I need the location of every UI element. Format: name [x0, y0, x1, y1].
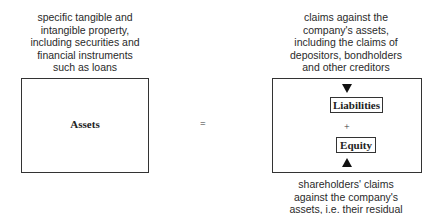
assets-description: specific tangible and intangible propert…	[20, 11, 150, 74]
equals-sign: =	[200, 118, 206, 129]
assets-box: Assets	[21, 78, 149, 173]
liabilities-description: claims against the company's assets, inc…	[271, 11, 421, 74]
liabilities-equity-box: Liabilities + Equity	[272, 78, 422, 173]
down-arrow-icon	[342, 84, 352, 93]
equity-description: shareholders' claims against the company…	[271, 178, 421, 214]
plus-sign: +	[344, 121, 350, 132]
assets-label: Assets	[22, 118, 148, 130]
equity-box: Equity	[336, 137, 376, 153]
liabilities-box: Liabilities	[330, 97, 383, 113]
up-arrow-icon	[342, 158, 352, 167]
